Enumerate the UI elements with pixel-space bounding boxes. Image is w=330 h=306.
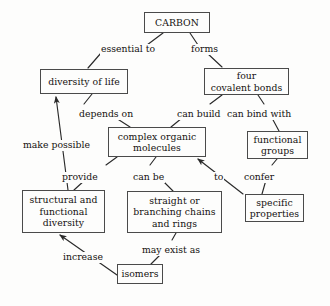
node-label-carbon: CARBON [152, 17, 202, 28]
node-isomers[interactable]: isomers [117, 264, 163, 284]
edge-label-e3: depends on [78, 109, 134, 120]
edge-label-e1: essential to [100, 44, 156, 55]
edge-label-e2: forms [190, 44, 219, 55]
concept-map-canvas: CARBONdiversity of lifefour covalent bon… [0, 0, 330, 306]
node-carbon[interactable]: CARBON [144, 12, 210, 33]
edge-label-e12: increase [62, 252, 104, 263]
node-chains[interactable]: straight or branching chains and rings [127, 191, 222, 233]
node-properties[interactable]: specific properties [245, 194, 304, 222]
node-label-functional: functional groups [251, 134, 305, 157]
edge-label-e7: provide [61, 172, 99, 183]
edge-label-e5: can bind with [226, 109, 292, 120]
edge-label-e11: may exist as [141, 245, 201, 256]
node-label-isomers: isomers [118, 268, 161, 279]
node-functional[interactable]: functional groups [247, 131, 308, 159]
node-bonds[interactable]: four covalent bonds [204, 68, 289, 95]
node-label-chains: straight or branching chains and rings [130, 195, 218, 229]
node-label-diversity: diversity of life [45, 76, 123, 87]
node-structural[interactable]: structural and functional diversity [22, 190, 105, 233]
node-label-molecules: complex organic molecules [115, 131, 200, 154]
edge-label-e6: make possible [22, 140, 91, 151]
node-molecules[interactable]: complex organic molecules [108, 127, 206, 157]
node-label-properties: specific properties [247, 197, 302, 220]
edge-label-e9: to [213, 172, 224, 183]
node-diversity[interactable]: diversity of life [40, 69, 128, 94]
edge-label-e10: confer [243, 172, 275, 183]
node-label-structural: structural and functional diversity [27, 194, 101, 228]
node-label-bonds: four covalent bonds [208, 70, 286, 93]
edge-label-e8: can be [132, 172, 165, 183]
edge-label-e4: can build [176, 109, 222, 120]
